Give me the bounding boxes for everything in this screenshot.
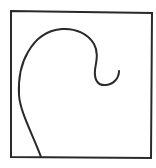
hook-curve xyxy=(19,29,119,157)
line-drawing xyxy=(0,0,156,168)
